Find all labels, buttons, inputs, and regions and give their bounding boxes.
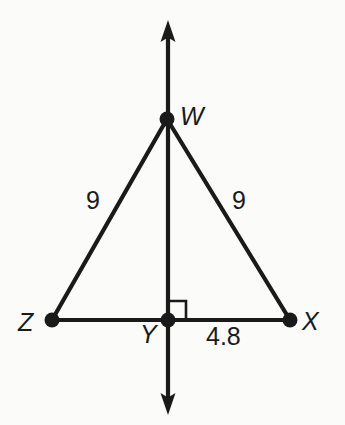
vertex-dot-w	[160, 112, 175, 127]
segment-WZ	[52, 119, 167, 320]
measure-label-yx: 4.8	[206, 324, 241, 349]
geometry-canvas	[0, 0, 345, 425]
geometry-figure: W Z X Y 9 9 4.8	[0, 0, 345, 425]
vertex-label-x: X	[302, 309, 319, 334]
vertex-dot-y	[161, 313, 176, 328]
vertical-transversal-line	[161, 20, 176, 415]
measure-label-wz: 9	[86, 188, 100, 213]
segment-WX	[167, 119, 290, 320]
vertex-dot-x	[283, 313, 298, 328]
vertex-dot-z	[45, 313, 60, 328]
measure-label-wx: 9	[232, 188, 246, 213]
vertex-label-z: Z	[18, 310, 33, 335]
vertex-label-y: Y	[140, 322, 157, 347]
vertex-label-w: W	[180, 104, 204, 129]
